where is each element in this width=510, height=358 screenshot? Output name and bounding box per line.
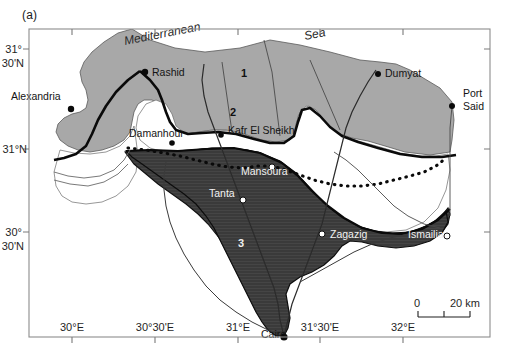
city-label-damanhour: Damanhour: [129, 127, 184, 139]
y-axis-ticks: [23, 49, 29, 232]
city-label-tanta: Tanta: [209, 187, 235, 199]
city-label-said: Said: [463, 100, 484, 112]
city-dot-ismailia: [444, 233, 450, 239]
region-number-2: 2: [230, 106, 236, 118]
city-dot-kafr-el-sheikh: [218, 132, 224, 138]
y-tick-label-1-line1: 31°N: [2, 143, 27, 155]
city-dot-zagazig: [319, 231, 325, 237]
city-dot-alexandria: [68, 106, 74, 112]
city-label-dumyat: Dumyat: [385, 67, 421, 79]
x-tick-label-0: 30°E: [60, 321, 84, 333]
x-tick-label-2: 31°E: [226, 321, 250, 333]
x-tick-label-1: 30°30'E: [136, 321, 174, 333]
city-label-rashid: Rashid: [152, 66, 185, 78]
x-tick-label-3: 31°30'E: [301, 321, 339, 333]
y-axis-tick-labels: 31° 30'N 31°N 30° 30'N: [2, 43, 27, 252]
region-number-1: 1: [241, 67, 247, 79]
city-dot-port-said: [449, 103, 455, 109]
x-axis-ticks: [72, 337, 403, 343]
city-label-cairo: Cairo: [261, 328, 286, 340]
scale-bar-max-label: 20 km: [450, 297, 480, 309]
panel-label: (a): [22, 8, 37, 22]
city-label-mansoura: Mansoura: [241, 165, 288, 177]
y-tick-label-0-line1: 31°: [5, 43, 22, 55]
city-dot-rashid: [142, 69, 148, 75]
y-tick-label-2-line1: 30°: [5, 226, 22, 238]
nile-delta-map: Mediterranean Sea 1 2 3 Rashid Alexandr: [0, 0, 510, 358]
city-dot-damanhour: [169, 140, 175, 146]
scale-bar-zero-label: 0: [414, 297, 420, 309]
city-label-port: Port: [463, 87, 482, 99]
city-dot-tanta: [240, 197, 246, 203]
city-label-ismailia: Ismailia: [408, 228, 444, 240]
city-label-kafr-el-sheikh: Kafr El Sheikh: [228, 124, 295, 136]
city-label-zagazig: Zagazig: [330, 228, 368, 240]
y-tick-label-2-line2: 30'N: [2, 240, 24, 252]
city-dot-dumyat: [375, 71, 381, 77]
y-tick-label-0-line2: 30'N: [2, 57, 24, 69]
region-number-3: 3: [238, 237, 244, 249]
city-label-alexandria: Alexandria: [11, 90, 61, 102]
x-tick-label-4: 32°E: [391, 321, 415, 333]
map-figure: (a): [0, 0, 510, 358]
